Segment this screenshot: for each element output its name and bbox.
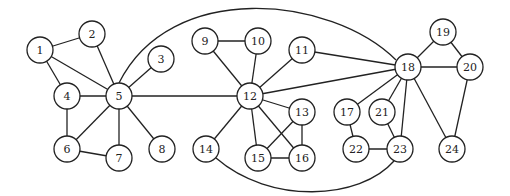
graph-diagram: 123456789101112131415161718192021222324 [0, 0, 510, 196]
node-label: 13 [295, 106, 309, 119]
node-label: 16 [295, 152, 309, 165]
node-label: 8 [159, 143, 166, 156]
node-label: 9 [202, 35, 209, 48]
nodes-layer: 123456789101112131415161718192021222324 [27, 19, 483, 171]
node-label: 12 [243, 90, 257, 103]
node-label: 22 [349, 143, 363, 156]
node-7: 7 [106, 145, 132, 171]
node-9: 9 [192, 28, 218, 54]
node-label: 2 [89, 28, 96, 41]
edge-18-24 [408, 67, 452, 149]
node-label: 1 [37, 44, 44, 57]
node-16: 16 [289, 145, 315, 171]
node-17: 17 [334, 99, 360, 125]
node-label: 21 [375, 106, 389, 119]
node-13: 13 [289, 99, 315, 125]
node-label: 14 [199, 143, 213, 156]
node-4: 4 [54, 83, 80, 109]
node-10: 10 [245, 28, 271, 54]
edge-11-18 [302, 50, 408, 67]
node-19: 19 [430, 19, 456, 45]
node-label: 5 [116, 90, 123, 103]
node-label: 11 [295, 44, 309, 57]
node-11: 11 [289, 37, 315, 63]
node-label: 15 [251, 152, 265, 165]
node-20: 20 [457, 54, 483, 80]
node-label: 6 [64, 143, 71, 156]
node-label: 7 [116, 152, 123, 165]
node-3: 3 [148, 46, 174, 72]
node-label: 18 [401, 61, 415, 74]
node-label: 3 [158, 53, 165, 66]
node-2: 2 [79, 21, 105, 47]
node-label: 24 [445, 143, 459, 156]
node-1: 1 [27, 37, 53, 63]
node-label: 19 [436, 26, 450, 39]
node-12: 12 [237, 83, 263, 109]
node-label: 20 [463, 61, 477, 74]
node-24: 24 [439, 136, 465, 162]
node-label: 23 [393, 143, 407, 156]
node-label: 10 [251, 35, 265, 48]
node-18: 18 [395, 54, 421, 80]
node-15: 15 [245, 145, 271, 171]
edge-12-18 [250, 67, 408, 96]
edge-1-5 [40, 50, 119, 96]
node-22: 22 [343, 136, 369, 162]
node-label: 17 [340, 106, 354, 119]
node-label: 4 [64, 90, 71, 103]
node-21: 21 [369, 99, 395, 125]
node-23: 23 [387, 136, 413, 162]
node-8: 8 [149, 136, 175, 162]
node-14: 14 [193, 136, 219, 162]
node-6: 6 [54, 136, 80, 162]
node-5: 5 [106, 83, 132, 109]
